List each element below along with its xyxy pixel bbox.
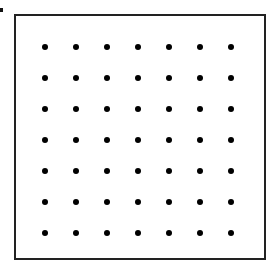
grid-dot <box>135 199 141 205</box>
grid-dot <box>42 137 48 143</box>
grid-dot <box>104 230 110 236</box>
grid-dot <box>73 106 79 112</box>
grid-dot <box>73 168 79 174</box>
grid-dot <box>73 199 79 205</box>
grid-dot <box>166 106 172 112</box>
grid-dot <box>228 199 234 205</box>
grid-dot <box>42 230 48 236</box>
grid-dot <box>166 230 172 236</box>
grid-dot <box>228 137 234 143</box>
grid-dot <box>228 44 234 50</box>
grid-dot <box>104 106 110 112</box>
grid-dot <box>135 75 141 81</box>
grid-dot <box>166 44 172 50</box>
grid-dot <box>135 137 141 143</box>
grid-dot <box>135 106 141 112</box>
grid-dot <box>228 230 234 236</box>
corner-mark <box>0 8 3 12</box>
grid-dot <box>73 44 79 50</box>
grid-dot <box>228 75 234 81</box>
grid-dot <box>197 137 203 143</box>
grid-dot <box>228 106 234 112</box>
grid-dot <box>104 199 110 205</box>
grid-dot <box>42 168 48 174</box>
grid-dot <box>104 168 110 174</box>
grid-dot <box>166 199 172 205</box>
grid-dot <box>197 168 203 174</box>
grid-dot <box>104 137 110 143</box>
grid-dot <box>197 75 203 81</box>
grid-dot <box>104 44 110 50</box>
grid-dot <box>42 106 48 112</box>
grid-dot <box>197 199 203 205</box>
grid-dot <box>166 168 172 174</box>
grid-dot <box>135 168 141 174</box>
grid-dot <box>228 168 234 174</box>
grid-dot <box>73 230 79 236</box>
grid-dot <box>166 137 172 143</box>
grid-dot <box>135 44 141 50</box>
grid-dot <box>197 106 203 112</box>
grid-dot <box>42 75 48 81</box>
grid-dot <box>42 199 48 205</box>
grid-dot <box>73 137 79 143</box>
grid-dot <box>135 230 141 236</box>
grid-dot <box>166 75 172 81</box>
grid-dot <box>197 230 203 236</box>
grid-dot <box>73 75 79 81</box>
grid-dot <box>197 44 203 50</box>
grid-dot <box>104 75 110 81</box>
grid-dot <box>42 44 48 50</box>
